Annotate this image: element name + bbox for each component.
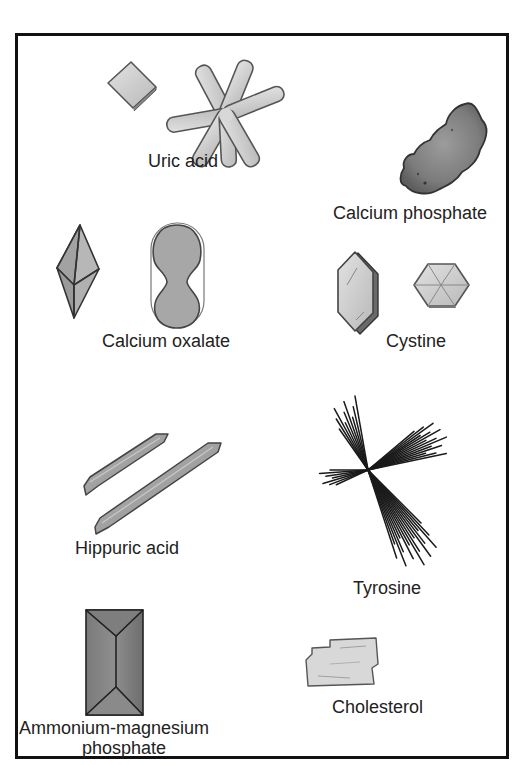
cystine-elongated-hexagon-icon: [338, 252, 378, 334]
struvite-coffin-lid-icon: [86, 610, 143, 715]
label-hippuric-acid: Hippuric acid: [75, 538, 179, 559]
tyrosine-needles-icon: [320, 396, 447, 566]
calcium-phosphate-mass-icon: [401, 103, 487, 193]
label-cholesterol: Cholesterol: [332, 697, 423, 718]
label-cystine: Cystine: [386, 331, 446, 352]
label-uric-acid: Uric acid: [148, 151, 218, 172]
cholesterol-plates-icon: [306, 638, 378, 686]
hippuric-acid-prism-icon-2: [95, 443, 221, 534]
calcium-oxalate-dumbbell-icon: [151, 223, 204, 328]
label-ammonium-magnesium-line1: Ammonium-magnesium: [19, 718, 209, 739]
calcium-oxalate-octahedron-icon: [57, 225, 99, 318]
uric-acid-plate-icon: [108, 62, 156, 111]
crystal-illustrations: [0, 0, 530, 765]
label-calcium-oxalate: Calcium oxalate: [102, 331, 230, 352]
cystine-hexagon-icon: [414, 264, 469, 308]
label-tyrosine: Tyrosine: [353, 578, 421, 599]
label-calcium-phosphate: Calcium phosphate: [333, 203, 487, 224]
label-ammonium-magnesium-line2: phosphate: [82, 738, 166, 759]
